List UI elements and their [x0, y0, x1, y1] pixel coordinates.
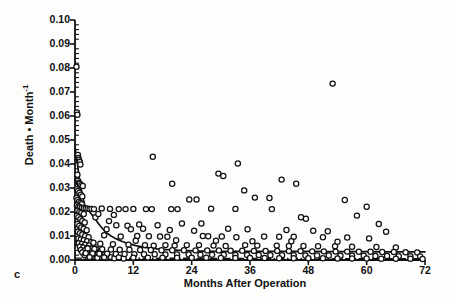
- data-point: [250, 239, 255, 244]
- data-point: [291, 256, 296, 261]
- data-point: [342, 197, 347, 202]
- data-point: [325, 229, 330, 234]
- chart-figure: 0.000.010.020.030.040.050.060.070.080.09…: [0, 0, 449, 304]
- data-point: [74, 64, 79, 69]
- scatter-points: [74, 64, 425, 261]
- data-point: [127, 247, 132, 252]
- data-point: [148, 247, 153, 252]
- data-point: [262, 255, 267, 260]
- data-point: [384, 253, 389, 258]
- data-point: [169, 207, 174, 212]
- data-point: [233, 255, 238, 260]
- data-point: [174, 255, 179, 260]
- data-point: [274, 243, 279, 248]
- data-point: [275, 248, 280, 253]
- x-axis-tick-label: 24: [186, 264, 198, 276]
- x-axis-title: Months After Operation: [100, 277, 390, 289]
- data-point: [367, 236, 372, 241]
- data-point: [107, 206, 112, 211]
- x-axis-tick-label: 48: [302, 264, 314, 276]
- fitted-hazard-curve: [75, 147, 425, 252]
- data-point: [354, 213, 359, 218]
- data-point: [279, 177, 284, 182]
- data-point: [199, 221, 204, 226]
- data-point: [116, 207, 121, 212]
- data-point: [233, 206, 238, 211]
- data-point: [364, 204, 369, 209]
- data-point: [286, 249, 291, 254]
- data-point: [91, 240, 96, 245]
- data-point: [97, 251, 102, 256]
- data-point: [391, 249, 396, 254]
- data-point: [80, 183, 85, 188]
- data-point: [218, 255, 223, 260]
- data-point: [137, 222, 142, 227]
- data-point: [157, 234, 162, 239]
- data-point: [131, 255, 136, 260]
- data-point: [170, 248, 175, 253]
- y-axis-tick-label: 0.02: [24, 205, 70, 217]
- data-point: [189, 255, 194, 260]
- data-point: [80, 194, 85, 199]
- data-point: [209, 252, 214, 257]
- data-point: [333, 249, 338, 254]
- data-point: [204, 255, 209, 260]
- data-point: [326, 253, 331, 258]
- y-axis-title-exponent: -1: [21, 85, 30, 92]
- data-point: [393, 256, 398, 261]
- data-point: [87, 255, 92, 260]
- data-point: [167, 227, 172, 232]
- data-point: [374, 244, 379, 249]
- data-point: [170, 181, 175, 186]
- data-point: [223, 243, 228, 248]
- data-point: [192, 228, 197, 233]
- data-point: [226, 226, 231, 231]
- data-point: [174, 238, 179, 243]
- data-point: [205, 248, 210, 253]
- data-point: [255, 243, 260, 248]
- data-point: [294, 181, 299, 186]
- data-point: [131, 206, 136, 211]
- data-point: [111, 212, 116, 217]
- data-point: [269, 207, 274, 212]
- data-point: [320, 256, 325, 261]
- data-point: [277, 256, 282, 261]
- data-point: [146, 234, 151, 239]
- data-point: [321, 249, 326, 254]
- data-point: [175, 207, 180, 212]
- data-point: [252, 195, 257, 200]
- data-point: [263, 248, 268, 253]
- data-point: [126, 242, 131, 247]
- data-point: [243, 243, 248, 248]
- data-point: [267, 195, 272, 200]
- data-point: [206, 234, 211, 239]
- x-axis-tick-label: 12: [127, 264, 139, 276]
- data-point: [228, 248, 233, 253]
- data-point: [289, 239, 294, 244]
- data-point: [198, 252, 203, 257]
- data-point: [345, 235, 350, 240]
- data-point: [99, 206, 104, 211]
- data-point: [356, 249, 361, 254]
- data-point: [128, 227, 133, 232]
- data-point: [193, 248, 198, 253]
- data-point: [187, 197, 192, 202]
- data-point: [245, 227, 250, 232]
- data-point: [196, 243, 201, 248]
- data-point: [81, 211, 86, 216]
- data-point: [117, 247, 122, 252]
- data-point: [314, 253, 319, 258]
- data-point: [165, 234, 170, 239]
- data-point: [301, 243, 306, 248]
- data-point: [256, 252, 261, 257]
- data-point: [84, 228, 89, 233]
- data-point: [349, 244, 354, 249]
- data-point: [98, 241, 103, 246]
- data-point: [96, 211, 101, 216]
- data-point: [284, 227, 289, 232]
- panel-label: c: [14, 268, 20, 280]
- data-point: [179, 221, 184, 226]
- data-point: [155, 223, 160, 228]
- data-point: [376, 221, 381, 226]
- data-point: [373, 253, 378, 258]
